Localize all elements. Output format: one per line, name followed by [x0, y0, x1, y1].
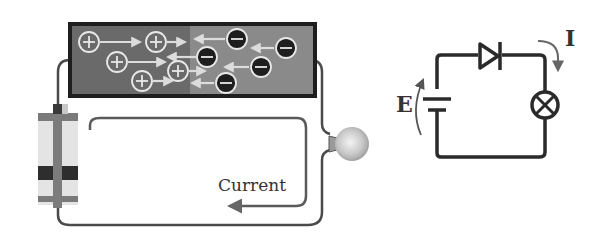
emf-label: E: [396, 91, 413, 117]
diode-circuit-diagram: Current E I: [0, 0, 597, 246]
light-bulb-icon: [329, 127, 369, 161]
current-label: Current: [218, 175, 286, 195]
hole-icon: [168, 61, 188, 81]
lamp-icon: [532, 92, 558, 118]
electron-icon: [251, 57, 271, 77]
electron-icon: [197, 47, 217, 67]
diode-icon: [480, 42, 500, 70]
electron-icon: [227, 29, 247, 49]
physical-circuit: Current: [38, 24, 369, 225]
current-i-label: I: [565, 25, 575, 51]
schematic-wire: [437, 55, 545, 157]
electron-icon: [216, 73, 236, 93]
hole-icon: [107, 52, 127, 72]
hole-icon: [79, 32, 99, 52]
battery-icon: [38, 104, 78, 208]
hole-icon: [146, 32, 166, 52]
schematic-circuit: [423, 42, 558, 157]
electron-icon: [276, 38, 296, 58]
hole-icon: [132, 71, 152, 91]
emf-arrow-icon: [416, 80, 423, 135]
